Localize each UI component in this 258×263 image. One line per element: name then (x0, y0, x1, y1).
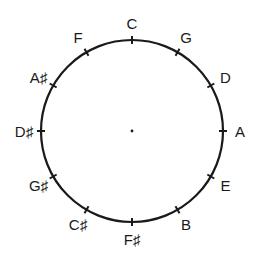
center-dot (131, 130, 134, 133)
note-label: A (235, 123, 245, 140)
note-label: B (181, 216, 191, 233)
note-label: D (220, 69, 231, 86)
note-label: C (127, 15, 138, 32)
note-label: A♯ (30, 69, 48, 86)
note-label: F♯ (124, 231, 141, 248)
note-label: G (180, 29, 192, 46)
note-label: G♯ (29, 177, 49, 194)
note-label: C♯ (69, 216, 88, 233)
note-label: D♯ (15, 123, 34, 140)
note-label: F (73, 29, 82, 46)
note-labels: CGDAEBF♯C♯G♯D♯A♯F (15, 15, 245, 248)
circle-of-fifths-diagram: CGDAEBF♯C♯G♯D♯A♯F (0, 0, 258, 263)
note-label: E (221, 177, 231, 194)
